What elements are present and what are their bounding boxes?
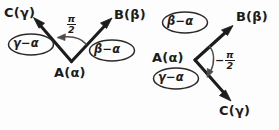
right-label-beta-minus-alpha: β−α [167, 16, 193, 28]
angle-arc-left [64, 37, 87, 44]
right-label-a-alpha: A(α) [152, 51, 184, 64]
angle-arc-right [210, 47, 214, 72]
right-label-gamma-minus-alpha: γ−α [158, 72, 184, 84]
left-angle-fraction: π2 [67, 14, 77, 35]
angle-arc-arrowhead-left [57, 34, 65, 41]
angle-diagrams-figure: C(γ) B(β) A(α) γ−α β−α π2 B(β) A(α) C(γ)… [0, 0, 279, 130]
right-angle-sign: − [215, 55, 225, 66]
right-angle-label: −π2 [215, 50, 235, 71]
left-label-a-alpha: A(α) [54, 66, 86, 79]
right-label-c-gamma: C(γ) [219, 104, 250, 117]
left-label-gamma-minus-alpha: γ−α [13, 38, 39, 50]
right-angle-denominator: 2 [225, 61, 235, 71]
left-label-beta-minus-alpha: β−α [94, 44, 120, 56]
right-angle-fraction: π2 [225, 50, 235, 71]
left-label-b-beta: B(β) [114, 8, 146, 21]
right-label-b-beta: B(β) [236, 10, 268, 23]
left-angle-denominator: 2 [67, 25, 77, 35]
left-label-c-gamma: C(γ) [4, 6, 35, 19]
left-angle-label: π2 [66, 14, 76, 35]
